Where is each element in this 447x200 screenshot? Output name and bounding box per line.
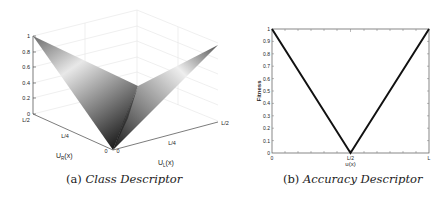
- y-axis-label: Fitness: [256, 80, 262, 102]
- plot-frame: [272, 29, 429, 153]
- z-tick-label: 0.8: [22, 49, 30, 55]
- ul-tick-label: 0: [116, 148, 119, 154]
- caption-a-title: Class Descriptor: [86, 172, 183, 186]
- y-tick-label: 0.9: [263, 38, 270, 44]
- y-tick-label: 0.3: [263, 113, 270, 119]
- ul-tick-label: L/2: [221, 120, 229, 126]
- y-tick-label: 0.7: [263, 63, 270, 69]
- class-descriptor-plot: 1 0.8 0.6 0.4 0.2 0 L/2 L/4 0 0 L/4 L/2 …: [0, 0, 230, 170]
- z-tick-label: 1: [27, 33, 30, 39]
- caption-b: (b) Accuracy Descriptor: [283, 172, 423, 186]
- caption-b-label: (b): [283, 172, 299, 186]
- ur-tick-label: 0: [104, 148, 107, 154]
- z-tick-label: 0.6: [22, 64, 30, 70]
- caption-a: (a) Class Descriptor: [66, 172, 182, 186]
- caption-b-title: Accuracy Descriptor: [303, 172, 423, 186]
- line-plot-svg: 1 0.9 0.8 0.7 0.6 0.5 0.4 0.3 0.2 0.1 0 …: [230, 0, 447, 170]
- ur-tick-label: L/4: [61, 133, 69, 139]
- y-tick-label: 0.1: [263, 138, 270, 144]
- z-axis-ticks: 1 0.8 0.6 0.4 0.2 0: [22, 33, 36, 117]
- y-tick-labels: 1 0.9 0.8 0.7 0.6 0.5 0.4 0.3 0.2 0.1 0: [263, 26, 270, 156]
- ul-tick-label: L/4: [168, 140, 176, 146]
- ur-axis-label: UR(x): [56, 152, 72, 161]
- caption-a-label: (a): [66, 172, 82, 186]
- y-tick-label: 0.5: [263, 88, 270, 94]
- x-tick-label: 0: [271, 155, 274, 161]
- accuracy-descriptor-plot: 1 0.9 0.8 0.7 0.6 0.5 0.4 0.3 0.2 0.1 0 …: [230, 0, 447, 170]
- y-tick-label: 0.4: [263, 100, 270, 106]
- x-tick-label: L: [428, 155, 431, 161]
- z-tick-label: 0.4: [22, 80, 30, 86]
- x-axis-label: u(x): [345, 161, 355, 167]
- ur-tick-label: L/2: [22, 117, 30, 123]
- z-tick-label: 0.2: [22, 95, 30, 101]
- y-tick-label: 0.2: [263, 125, 270, 131]
- y-tick-label: 0.6: [263, 76, 270, 82]
- y-tick-label: 1: [267, 26, 270, 32]
- y-tick-label: 0.8: [263, 51, 270, 57]
- surface-plot-svg: 1 0.8 0.6 0.4 0.2 0 L/2 L/4 0 0 L/4 L/2 …: [0, 0, 230, 170]
- ul-axis-label: UL(x): [158, 159, 174, 168]
